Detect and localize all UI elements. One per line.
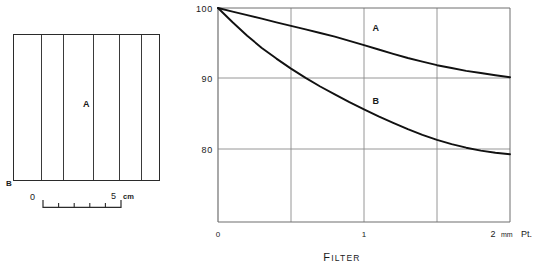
- y-tick-label-90: 90: [202, 74, 213, 84]
- panel-label-b: B: [6, 179, 12, 188]
- chart-gridlines: [218, 8, 510, 222]
- x-axis-title: FILTER: [323, 251, 360, 263]
- panel-chart: 100 90 80 0 1 2 mm Pt. FILTER A B: [190, 0, 554, 268]
- x-axis-end-material: Pt.: [521, 229, 532, 239]
- panel-strip-diagram: A B 0 5 cm: [0, 0, 190, 268]
- strip-rectangle: A: [13, 34, 160, 181]
- scale-bar: 0 5 cm: [30, 190, 160, 210]
- scale-bar-start-label: 0: [30, 192, 35, 202]
- scale-bar-ruler-icon: [42, 200, 122, 210]
- curve-label-a: A: [373, 23, 380, 33]
- x-axis-end-value: 2: [490, 229, 495, 239]
- curve-label-b: B: [373, 96, 380, 106]
- y-tick-label-100: 100: [196, 4, 213, 14]
- x-tick-label-0: 0: [216, 230, 221, 239]
- strip-inner-label: A: [14, 99, 159, 109]
- scale-bar-unit-label: cm: [123, 192, 134, 201]
- x-axis-end-unit: mm: [501, 231, 513, 238]
- chart-canvas: 100 90 80 0 1 2 mm Pt. FILTER A B: [190, 0, 554, 268]
- y-tick-label-80: 80: [202, 145, 213, 155]
- figure-root: A B 0 5 cm: [0, 0, 554, 268]
- x-tick-label-1: 1: [362, 230, 367, 239]
